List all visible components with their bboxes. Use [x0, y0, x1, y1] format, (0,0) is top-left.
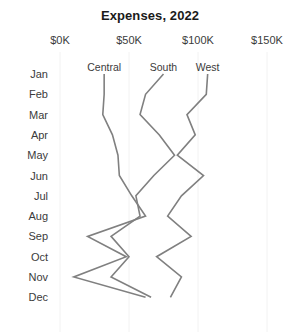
y-axis-tick-label-dec: Dec: [4, 291, 48, 303]
x-axis-tick-label: $0K: [50, 34, 70, 46]
series-label-south: South: [150, 61, 177, 73]
y-axis-tick-label-sep: Sep: [4, 230, 48, 242]
series-line-central[interactable]: [74, 74, 146, 297]
series-label-central: Central: [87, 61, 121, 73]
y-axis-tick-label-nov: Nov: [4, 271, 48, 283]
chart-container: Expenses, 2022 $0K$50K$100K$150K JanFebM…: [0, 0, 300, 332]
x-axis-tick-label: $100K: [182, 34, 214, 46]
y-axis-tick-label-mar: Mar: [4, 109, 48, 121]
y-axis-tick-label-jan: Jan: [4, 68, 48, 80]
y-axis-tick-label-jul: Jul: [4, 190, 48, 202]
series-label-west: West: [196, 61, 220, 73]
series-paths: [74, 74, 208, 297]
y-axis-tick-label-jun: Jun: [4, 170, 48, 182]
y-axis-tick-label-aug: Aug: [4, 210, 48, 222]
series-line-west[interactable]: [157, 74, 208, 297]
gridlines: [60, 52, 267, 332]
y-axis-tick-label-oct: Oct: [4, 251, 48, 263]
y-axis-tick-label-apr: Apr: [4, 129, 48, 141]
x-axis-tick-label: $150K: [251, 34, 283, 46]
x-axis-tick-label: $50K: [116, 34, 142, 46]
y-axis-tick-label-may: May: [4, 149, 48, 161]
y-axis-tick-label-feb: Feb: [4, 88, 48, 100]
